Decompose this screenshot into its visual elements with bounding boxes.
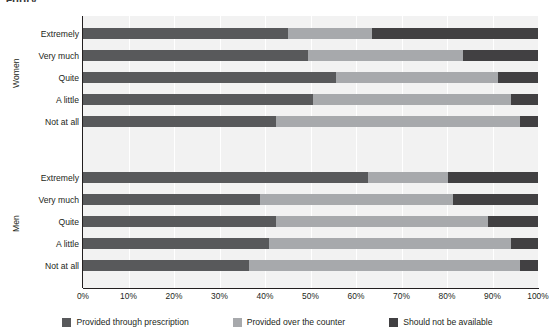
chart-legend: Provided through prescriptionProvided ov… (0, 313, 555, 331)
bar-segment (463, 50, 538, 61)
bar-row (83, 172, 538, 183)
category-label: Not at all (4, 261, 79, 271)
bar-segment (83, 28, 288, 39)
bar-segment (308, 50, 463, 61)
bar-segment (83, 194, 260, 205)
bar-row (83, 116, 538, 127)
legend-item[interactable]: Provided over the counter (233, 317, 345, 327)
bar-segment (276, 216, 488, 227)
bar-row (83, 72, 538, 83)
bar-segment (498, 72, 538, 83)
page-title: egory (6, 0, 37, 2)
gridline (538, 16, 539, 288)
legend-swatch-icon (389, 318, 398, 327)
group-label-men: Men (6, 217, 26, 231)
bar-row (83, 94, 538, 105)
bar-row (83, 260, 538, 271)
group-label-women: Women (6, 73, 26, 87)
bar-segment (520, 116, 538, 127)
plot-area (83, 16, 538, 288)
category-label: Very much (4, 195, 79, 205)
bar-segment (269, 238, 511, 249)
y-axis-line (82, 16, 83, 288)
x-axis-tick-label: 80% (427, 291, 467, 301)
x-axis-tick-label: 30% (200, 291, 240, 301)
bar-segment (83, 172, 368, 183)
x-axis-tick-label: 50% (291, 291, 331, 301)
bar-segment (83, 72, 336, 83)
bar-segment (368, 172, 448, 183)
legend-item[interactable]: Should not be available (389, 317, 492, 327)
bar-segment (249, 260, 520, 271)
bar-segment (448, 172, 538, 183)
bar-segment (260, 194, 453, 205)
bar-row (83, 28, 538, 39)
bar-segment (511, 94, 538, 105)
category-label: A little (4, 239, 79, 249)
legend-swatch-icon (62, 318, 71, 327)
bar-row (83, 238, 538, 249)
x-axis-tick-label: 0% (63, 291, 103, 301)
x-axis-tick-label: 60% (336, 291, 376, 301)
category-label: Not at all (4, 117, 79, 127)
bar-segment (83, 94, 313, 105)
x-axis-tick-label: 70% (382, 291, 422, 301)
x-axis-tick-label: 10% (109, 291, 149, 301)
category-label: Extremely (4, 29, 79, 39)
bar-row (83, 194, 538, 205)
legend-label: Provided over the counter (247, 317, 345, 327)
bar-segment (83, 260, 249, 271)
category-labels: ExtremelyVery muchQuiteA littleNot at al… (0, 16, 79, 288)
bar-segment (511, 238, 538, 249)
bar-row (83, 216, 538, 227)
bar-segment (313, 94, 511, 105)
bar-segment (83, 116, 276, 127)
legend-label: Provided through prescription (76, 317, 188, 327)
bar-segment (372, 28, 538, 39)
category-label: Extremely (4, 173, 79, 183)
bar-segment (83, 50, 308, 61)
legend-label: Should not be available (403, 317, 492, 327)
x-axis-tick-label: 100% (518, 291, 555, 301)
bar-segment (453, 194, 538, 205)
legend-swatch-icon (233, 318, 242, 327)
x-axis-tick-label: 90% (473, 291, 513, 301)
bar-segment (488, 216, 538, 227)
bar-segment (83, 238, 269, 249)
x-axis-line (83, 288, 539, 289)
bar-row (83, 50, 538, 61)
category-label: A little (4, 95, 79, 105)
bar-segment (276, 116, 520, 127)
x-axis-tick-label: 20% (154, 291, 194, 301)
x-axis-tick-label: 40% (245, 291, 285, 301)
bar-segment (83, 216, 276, 227)
legend-item[interactable]: Provided through prescription (62, 317, 188, 327)
stacked-bar-chart: egory ExtremelyVery muchQuiteA littleNot… (0, 0, 555, 336)
bar-segment (520, 260, 538, 271)
bar-segment (288, 28, 372, 39)
bar-segment (336, 72, 498, 83)
